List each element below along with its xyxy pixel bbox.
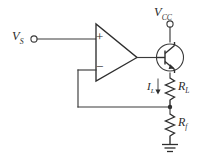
supply-terminal-node [167, 21, 173, 27]
feedback-resistor-zigzag [166, 114, 175, 144]
supply-voltage-symbol: V [154, 5, 162, 19]
feedback-resistor-label: Rf [178, 116, 187, 131]
npn-transistor [157, 42, 184, 73]
load-resistor-subscript: L [185, 86, 189, 95]
input-voltage-label: VS [12, 30, 24, 45]
load-resistor [166, 78, 175, 107]
supply-voltage-subscript: CC [162, 13, 172, 22]
feedback-wire [78, 70, 170, 107]
supply-voltage-label: VCC [154, 6, 172, 21]
feedback-resistor-subscript: f [185, 122, 187, 131]
load-current-subscript: L [151, 87, 155, 94]
load-current-arrow [155, 79, 160, 95]
load-current-arrow-head-icon [155, 90, 160, 95]
ground [162, 145, 178, 152]
opamp-inverting-label: − [96, 60, 103, 73]
operational-amplifier [78, 24, 164, 81]
input-voltage-symbol: V [12, 29, 20, 43]
supply-terminal [167, 21, 173, 42]
input-voltage-subscript: S [20, 37, 24, 46]
load-current-label: IL [147, 81, 154, 95]
feedback-resistor [166, 107, 175, 144]
opamp-noninverting-label: + [96, 30, 103, 43]
circuit-schematic-canvas [0, 0, 200, 162]
load-resistor-label: RL [178, 80, 189, 95]
load-resistor-zigzag [166, 78, 175, 107]
input-terminal [31, 36, 96, 42]
input-terminal-node [31, 36, 37, 42]
circuit-diagram: VS VCC RL Rf IL + − [0, 0, 200, 162]
